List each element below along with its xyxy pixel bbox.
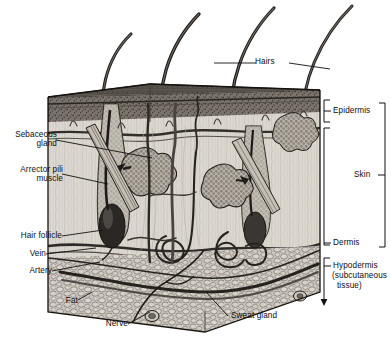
- leader-hairs-right: [289, 63, 330, 69]
- label-sweat-gland: Sweat gland: [231, 311, 277, 320]
- hypodermis-arrow-head: [321, 299, 328, 306]
- label-hairs: Hairs: [255, 57, 275, 66]
- label-fat: Fat: [0, 296, 78, 305]
- label-epidermis: Epidermis: [333, 106, 370, 115]
- label-skin: Skin: [354, 170, 370, 179]
- label-vein: Vein: [0, 249, 46, 258]
- skin-block: [40, 84, 332, 340]
- label-arrector-pili-muscle: Arrector pili muscle: [0, 165, 63, 184]
- label-nerve: Nerve: [0, 319, 128, 328]
- bracket-dermis: [324, 128, 330, 245]
- label-hair-follicle: Hair follicle: [0, 231, 62, 240]
- label-hypodermis-line1: Hypodermis: [333, 261, 378, 270]
- label-hypodermis-line2: (subcutaneous: [332, 271, 387, 280]
- figure-skin-cross-section: Hairs Sebaceous gland Arrector pili musc…: [0, 0, 391, 341]
- label-dermis: Dermis: [333, 238, 360, 247]
- label-sebaceous-gland: Sebaceous gland: [0, 130, 57, 149]
- bracket-hypodermis: [324, 258, 330, 292]
- label-artery: Artery: [0, 266, 52, 275]
- label-hypodermis-line3: tissue): [337, 281, 362, 290]
